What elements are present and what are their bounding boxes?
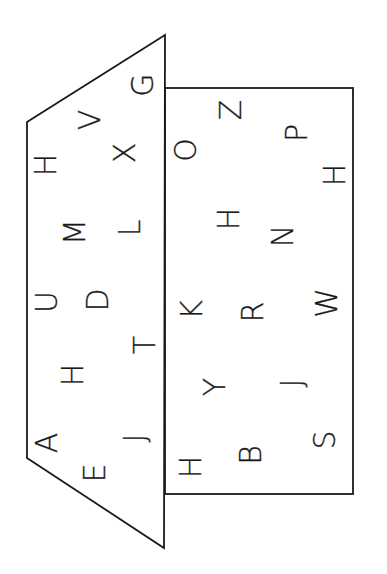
- rectangle-letter: Y: [195, 367, 235, 407]
- trapezoid-letter: T: [125, 325, 165, 365]
- rectangle-letter: K: [172, 290, 212, 330]
- trapezoid-letter: X: [105, 133, 145, 173]
- rectangle-letter: O: [166, 130, 206, 170]
- trapezoid-letter: L: [110, 208, 150, 248]
- rectangle-letter: H: [315, 155, 355, 195]
- rectangle-letter: N: [263, 216, 303, 256]
- rectangle-letter: H: [209, 199, 249, 239]
- trapezoid-letter: U: [27, 282, 67, 322]
- trapezoid-letter: V: [70, 100, 110, 140]
- trapezoid-letter: M: [55, 212, 95, 252]
- rectangle-letter: Z: [211, 90, 251, 130]
- rectangle-letter: S: [305, 420, 345, 460]
- trapezoid-letter: E: [75, 453, 115, 493]
- rectangle-letter: P: [277, 113, 317, 153]
- rectangle-letter: H: [171, 447, 211, 487]
- trapezoid-letter: D: [78, 280, 118, 320]
- trapezoid-letter: J: [115, 418, 155, 458]
- rectangle-letter: W: [307, 283, 347, 323]
- rectangle-letter: R: [233, 292, 273, 332]
- trapezoid-letter: A: [27, 423, 67, 463]
- rectangle-letter: J: [272, 363, 312, 403]
- trapezoid-letter: G: [123, 65, 163, 105]
- trapezoid-letter: H: [53, 355, 93, 395]
- trapezoid-letter: H: [26, 145, 66, 185]
- rectangle-letter: B: [231, 435, 271, 475]
